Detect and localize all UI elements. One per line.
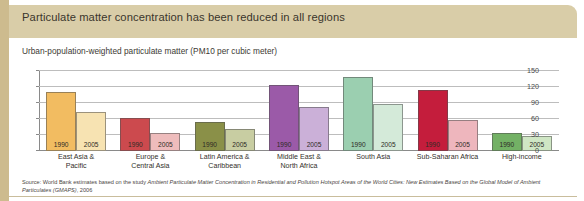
bar-year-label: 1990	[425, 142, 440, 150]
category-label-line: Sub-Saharan Africa	[410, 153, 484, 162]
bar-year-label: 2005	[84, 142, 99, 150]
bar[interactable]: 1990	[343, 77, 373, 151]
bar-group: 19902005	[188, 70, 262, 151]
category-label-line: Europe &	[113, 153, 187, 162]
category-label-line: East Asia &	[39, 153, 113, 162]
y-tick-label: 0	[519, 146, 539, 155]
bar-year-label: 1990	[54, 142, 69, 150]
source-prefix: Source: World Bank estimates based on th…	[22, 179, 148, 185]
bar-group: 19902005	[39, 70, 113, 151]
category-label: South Asia	[336, 153, 410, 171]
y-tick-label: 60	[519, 114, 539, 123]
bar-year-label: 1990	[202, 142, 217, 150]
bar-group: 19902005	[113, 70, 187, 151]
category-label-line: South Asia	[336, 153, 410, 162]
bar-year-label: 1990	[277, 142, 292, 150]
bar[interactable]: 1990	[195, 122, 225, 151]
bar-year-label: 2005	[455, 142, 470, 150]
bar[interactable]: 2005	[150, 133, 180, 151]
bar-group: 19902005	[410, 70, 484, 151]
category-label: Sub-Saharan Africa	[410, 153, 484, 171]
category-labels: East Asia &PacificEurope &Central AsiaLa…	[39, 153, 559, 171]
bar[interactable]: 2005	[299, 107, 329, 151]
category-label-line: Pacific	[39, 162, 113, 171]
bar-year-label: 2005	[232, 142, 247, 150]
category-label: Latin America &Caribbean	[188, 153, 262, 171]
category-label-line: Central Asia	[113, 162, 187, 171]
bar-group: 19902005	[262, 70, 336, 151]
category-label: Europe &Central Asia	[113, 153, 187, 171]
bar[interactable]: 1990	[46, 92, 76, 151]
category-label-line: Middle East &	[262, 153, 336, 162]
y-tick-label: 150	[519, 66, 539, 75]
chart-title: Particulate matter concentration has bee…	[22, 11, 345, 23]
bar[interactable]: 2005	[373, 104, 403, 151]
source-note: Source: World Bank estimates based on th…	[22, 178, 562, 194]
bar[interactable]: 1990	[418, 90, 448, 151]
bar-year-label: 2005	[381, 142, 396, 150]
category-label: East Asia &Pacific	[39, 153, 113, 171]
bar-group: 19902005	[336, 70, 410, 151]
bar[interactable]: 1990	[492, 133, 522, 151]
left-accent-bar	[0, 0, 9, 201]
category-label: High-income	[485, 153, 559, 171]
bar[interactable]: 2005	[76, 112, 106, 151]
bottom-rule	[9, 196, 577, 197]
bar[interactable]: 2005	[448, 120, 478, 151]
bar-year-label: 2005	[158, 142, 173, 150]
y-tick-label: 90	[519, 98, 539, 107]
category-label-line: Caribbean	[188, 162, 262, 171]
category-label-line: North Africa	[262, 162, 336, 171]
bar-year-label: 1990	[351, 142, 366, 150]
figure-container: Particulate matter concentration has bee…	[0, 0, 584, 201]
category-label-line: Latin America &	[188, 153, 262, 162]
category-label: Middle East &North Africa	[262, 153, 336, 171]
bar-year-label: 1990	[128, 142, 143, 150]
chart-subtitle: Urban-population-weighted particulate ma…	[22, 46, 277, 56]
bar[interactable]: 2005	[225, 129, 255, 151]
source-year: , 2006	[77, 187, 93, 193]
bar[interactable]: 1990	[269, 85, 299, 151]
y-tick-label: 120	[519, 82, 539, 91]
bar[interactable]: 1990	[120, 118, 150, 151]
bar-year-label: 2005	[307, 142, 322, 150]
bar-year-label: 1990	[499, 142, 514, 150]
bar-groups: 1990200519902005199020051990200519902005…	[39, 70, 559, 151]
y-tick-label: 30	[519, 130, 539, 139]
